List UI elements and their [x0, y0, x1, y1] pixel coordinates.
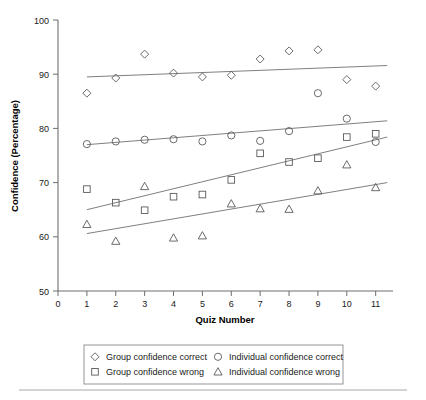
data-point-square — [257, 150, 264, 157]
x-tick-label: 10 — [342, 299, 352, 309]
data-point-triangle — [112, 237, 120, 244]
data-point-square — [372, 131, 379, 138]
x-tick-label: 11 — [371, 299, 380, 309]
y-axis-ticks — [53, 20, 58, 291]
data-point-triangle — [314, 187, 322, 194]
data-point-triangle — [227, 200, 235, 207]
x-tick-label: 1 — [84, 299, 89, 309]
data-point-diamond — [343, 76, 351, 84]
legend-marker-triangle — [214, 368, 222, 375]
data-point-diamond — [285, 47, 293, 55]
trend-line-circle — [87, 121, 387, 145]
y-tick-label: 70 — [39, 178, 49, 188]
x-axis-ticks — [58, 291, 376, 296]
legend-label: Individual confidence correct — [229, 352, 344, 362]
data-point-circle — [112, 138, 119, 145]
x-tick-label: 8 — [287, 299, 292, 309]
x-tick-label: 6 — [229, 299, 234, 309]
legend-border — [84, 345, 343, 384]
data-point-diamond — [83, 89, 91, 97]
data-point-square — [170, 193, 177, 200]
trend-line-triangle — [87, 183, 387, 234]
data-point-diamond — [198, 73, 206, 81]
data-point-triangle — [141, 182, 149, 189]
x-tick-label: 9 — [315, 299, 320, 309]
data-point-diamond — [314, 46, 322, 54]
x-tick-label: 5 — [200, 299, 205, 309]
data-point-triangle — [83, 220, 91, 227]
data-point-square — [199, 191, 206, 198]
x-tick-label: 0 — [55, 299, 60, 309]
x-tick-label: 2 — [113, 299, 118, 309]
data-point-square — [343, 134, 350, 141]
data-point-diamond — [256, 55, 264, 63]
data-point-circle — [343, 115, 350, 122]
x-axis-title: Quiz Number — [195, 314, 254, 325]
legend-marker-diamond — [91, 353, 99, 361]
x-tick-label: 4 — [171, 299, 176, 309]
data-point-circle — [170, 136, 177, 143]
legend-label: Group confidence correct — [106, 352, 208, 362]
legend-label: Individual confidence wrong — [229, 367, 340, 377]
data-point-diamond — [112, 74, 120, 82]
data-point-circle — [199, 138, 206, 145]
data-point-diamond — [227, 71, 235, 79]
trend-line-square — [87, 137, 387, 210]
y-axis-title: Confidence (Percentage) — [9, 100, 20, 212]
data-point-square — [84, 186, 91, 193]
y-axis-tick-labels: 100 90 80 70 60 50 — [34, 16, 49, 297]
data-point-square — [141, 207, 148, 214]
data-point-square — [315, 155, 322, 162]
y-tick-label: 50 — [39, 287, 49, 297]
y-tick-label: 80 — [39, 124, 49, 134]
data-point-triangle — [343, 161, 351, 168]
legend-marker-square — [92, 369, 99, 376]
data-point-diamond — [141, 50, 149, 58]
data-point-circle — [257, 137, 264, 144]
y-tick-label: 60 — [39, 232, 49, 242]
y-tick-label: 90 — [39, 70, 49, 80]
data-point-square — [286, 159, 293, 166]
data-point-circle — [314, 90, 321, 97]
y-tick-label: 100 — [34, 16, 49, 26]
chart-legend: Group confidence correctIndividual confi… — [84, 345, 344, 384]
trend-line-diamond — [87, 66, 387, 77]
data-point-triangle — [256, 205, 264, 212]
trend-lines-group — [87, 66, 387, 234]
data-point-triangle — [169, 234, 177, 241]
data-point-diamond — [372, 82, 380, 90]
confidence-scatter-chart: 100 90 80 70 60 50 01234567891011 Confid… — [0, 0, 426, 400]
data-point-square — [228, 177, 235, 184]
figure-container: 100 90 80 70 60 50 01234567891011 Confid… — [0, 0, 426, 400]
data-point-triangle — [285, 205, 293, 212]
x-axis-tick-labels: 01234567891011 — [55, 299, 380, 309]
legend-marker-circle — [214, 353, 221, 360]
x-tick-label: 3 — [142, 299, 147, 309]
x-tick-label: 7 — [258, 299, 263, 309]
legend-label: Group confidence wrong — [106, 367, 204, 377]
data-point-triangle — [198, 232, 206, 239]
